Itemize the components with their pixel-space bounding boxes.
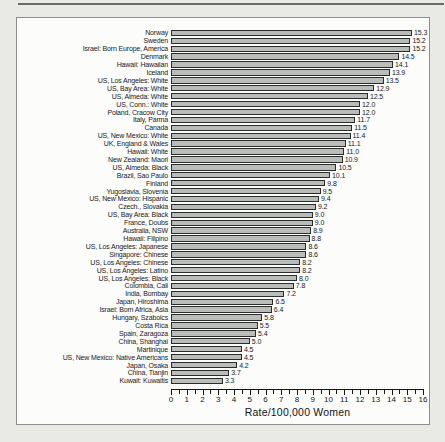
bar-row: Israel: Born Africa, Asia6.4 <box>17 306 429 314</box>
axis-tick-label: 9 <box>311 396 315 404</box>
value-label: 11.5 <box>354 124 367 131</box>
bar-row: Iceland13.9 <box>17 69 429 77</box>
category-label: Czech., Slovakia <box>17 203 171 210</box>
bar-row: Hawaii: White11.0 <box>17 148 429 156</box>
bar-row: Martinique4.5 <box>17 345 429 353</box>
bar-row: Canada11.5 <box>17 124 429 132</box>
bar <box>171 291 284 297</box>
axis-minor-tick <box>195 390 196 394</box>
axis-minor-tick <box>289 390 290 394</box>
axis-tick-label: 11 <box>340 396 348 404</box>
category-label: US, Almeda: Black <box>17 164 171 171</box>
value-label: 15.2 <box>412 37 425 44</box>
value-label: 12.9 <box>376 85 389 92</box>
scanned-chart-page: Norway15.3Sweden15.2Israel: Born Europe,… <box>0 0 445 442</box>
bar-row: US, Los Angeles: Japanese8.6 <box>17 242 429 250</box>
value-label: 9.0 <box>315 211 324 218</box>
value-label: 11.1 <box>348 140 361 147</box>
bar-row: US, Los Angeles: Black8.0 <box>17 274 429 282</box>
value-label: 6.5 <box>275 298 284 305</box>
axis-minor-tick <box>226 390 227 394</box>
category-label: France, Doubs <box>17 219 171 226</box>
bar <box>171 30 412 36</box>
bar <box>171 212 313 218</box>
category-label: US, Los Angeles: White <box>17 77 171 84</box>
category-label: Iceland <box>17 69 171 76</box>
bar <box>171 204 316 210</box>
value-label: 3.3 <box>225 377 234 384</box>
bar <box>171 267 300 273</box>
bar <box>171 148 344 154</box>
bar-row: China, Tianjin3.7 <box>17 369 429 377</box>
axis-tick-label: 14 <box>387 396 396 404</box>
bar <box>171 370 229 376</box>
bar-row: US, New Mexico: Hispanic9.4 <box>17 195 429 203</box>
bar-row: India, Bombay7.2 <box>17 290 429 298</box>
value-label: 11.7 <box>357 116 370 123</box>
bar <box>171 251 306 257</box>
bar <box>171 354 242 360</box>
axis-minor-tick <box>399 390 400 394</box>
bar <box>171 196 319 202</box>
bar <box>171 314 262 320</box>
value-label: 15.3 <box>414 29 427 36</box>
value-label: 3.7 <box>231 369 240 376</box>
value-label: 12.0 <box>362 101 375 108</box>
bar-row: Kuwait: Kuwaitis3.3 <box>17 377 429 385</box>
value-label: 8.8 <box>312 235 321 242</box>
value-label: 14.5 <box>401 53 414 60</box>
bar-row: UK, England & Wales11.1 <box>17 140 429 148</box>
bar-row: Hawaii: Filipino8.8 <box>17 235 429 243</box>
value-label: 6.4 <box>274 306 283 313</box>
bar <box>171 125 352 131</box>
axis-tick-label: 3 <box>216 396 220 404</box>
value-label: 10.9 <box>345 156 358 163</box>
axis-tick-label: 10 <box>324 396 333 404</box>
category-label: US, Bay Area: Black <box>17 211 171 218</box>
category-label: Kuwait: Kuwaitis <box>17 377 171 384</box>
value-label: 7.8 <box>296 282 305 289</box>
category-label: Martinique <box>17 346 171 353</box>
axis-minor-tick <box>384 390 385 394</box>
bar <box>171 346 242 352</box>
category-label: Israel: Born Africa, Asia <box>17 306 171 313</box>
bar <box>171 46 410 52</box>
category-label: US, Almeda: White <box>17 93 171 100</box>
value-label: 13.5 <box>386 77 399 84</box>
axis-minor-tick <box>352 390 353 394</box>
bar-row: Brazil, Sao Paulo10.1 <box>17 171 429 179</box>
bar <box>171 259 300 265</box>
value-label: 10.1 <box>332 172 345 179</box>
bar <box>171 306 272 312</box>
axis-minor-tick <box>242 390 243 394</box>
bar <box>171 156 343 162</box>
category-label: Yugoslavia, Slovenia <box>17 188 171 195</box>
value-label: 4.5 <box>244 354 253 361</box>
category-label: Israel: Born Europe, America <box>17 45 171 52</box>
chart-panel: Norway15.3Sweden15.2Israel: Born Europe,… <box>16 17 430 425</box>
x-axis-title: Rate/100,000 Women <box>171 406 424 418</box>
category-label: Brazil, Sao Paulo <box>17 172 171 179</box>
bar <box>171 69 390 75</box>
axis-tick-label: 15 <box>403 396 412 404</box>
category-label: US, Los Angeles: Chinese <box>17 259 171 266</box>
value-label: 8.9 <box>313 227 322 234</box>
x-axis: 012345678910111213141516 <box>171 389 424 406</box>
bar <box>171 378 223 384</box>
category-label: Hungary, Szabolcs <box>17 314 171 321</box>
value-label: 9.8 <box>327 180 336 187</box>
bar <box>171 227 311 233</box>
category-label: India, Bombay <box>17 290 171 297</box>
axis-tick-label: 8 <box>295 396 299 404</box>
bar <box>171 117 355 123</box>
bar <box>171 220 313 226</box>
bar-row: Japan, Osaka4.2 <box>17 361 429 369</box>
bar-row: Hungary, Szabolcs5.8 <box>17 314 429 322</box>
value-label: 8.6 <box>308 251 317 258</box>
bar <box>171 38 410 44</box>
category-label: Italy, Parma <box>17 116 171 123</box>
bar <box>171 140 346 146</box>
bar-row: Singapore: Chinese8.6 <box>17 250 429 258</box>
value-label: 8.2 <box>302 267 311 274</box>
bar <box>171 133 351 139</box>
